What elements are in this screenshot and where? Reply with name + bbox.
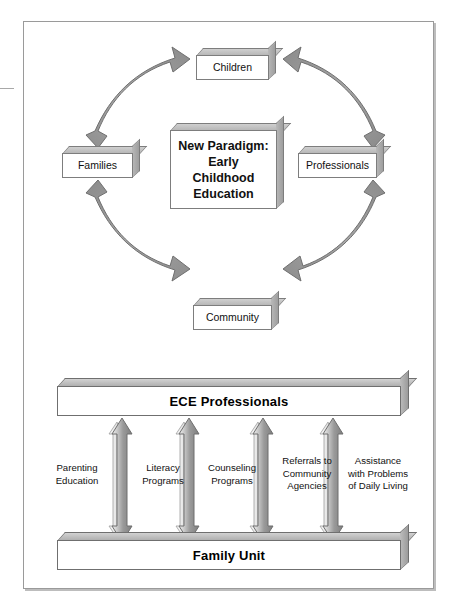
box-side-face xyxy=(132,139,140,178)
center-line-4: Education xyxy=(189,186,257,202)
box-front-face: Community xyxy=(193,305,272,330)
box-front-face: Professionals xyxy=(298,153,377,178)
service-label-assistance-daily-living: Assistance with Problems of Daily Living xyxy=(340,455,416,493)
box-side-face xyxy=(271,291,279,330)
bar-front-face: ECE Professionals xyxy=(57,386,401,416)
node-label-families: Families xyxy=(74,159,121,172)
bar-side-face xyxy=(400,524,409,570)
node-box-families[interactable]: Families xyxy=(62,146,140,178)
center-box-new-paradigm[interactable]: New Paradigm: Early Childhood Education xyxy=(170,123,284,209)
node-box-community[interactable]: Community xyxy=(193,298,279,330)
box-front-face: Families xyxy=(62,153,133,178)
center-line-3: Childhood xyxy=(189,170,259,186)
box-side-face xyxy=(276,116,284,209)
bar-front-face: Family Unit xyxy=(57,540,401,570)
center-line-2: Early xyxy=(204,154,243,170)
node-label-professionals: Professionals xyxy=(302,159,373,172)
service-label-counseling-programs: Counseling Programs xyxy=(199,462,265,487)
node-label-community: Community xyxy=(202,311,263,324)
node-label-children: Children xyxy=(209,61,256,74)
service-label-parenting-education: Parenting Education xyxy=(46,462,108,487)
center-line-1: New Paradigm: xyxy=(174,138,272,154)
bar-label-family-unit: Family Unit xyxy=(193,548,265,563)
service-label-referrals-community-agencies: Referrals to Community Agencies xyxy=(274,455,340,493)
box-front-face: Children xyxy=(196,55,269,80)
node-box-professionals[interactable]: Professionals xyxy=(298,146,384,178)
box-front-face: New Paradigm: Early Childhood Education xyxy=(170,130,277,209)
service-label-literacy-programs: Literacy Programs xyxy=(132,462,194,487)
bar-ece-professionals[interactable]: ECE Professionals xyxy=(57,378,409,416)
left-margin-tick xyxy=(0,88,14,89)
bar-label-ece-professionals: ECE Professionals xyxy=(170,394,289,409)
bar-side-face xyxy=(400,370,409,416)
box-side-face xyxy=(268,41,276,80)
bar-family-unit[interactable]: Family Unit xyxy=(57,532,409,570)
box-side-face xyxy=(376,139,384,178)
node-box-children[interactable]: Children xyxy=(196,48,276,80)
